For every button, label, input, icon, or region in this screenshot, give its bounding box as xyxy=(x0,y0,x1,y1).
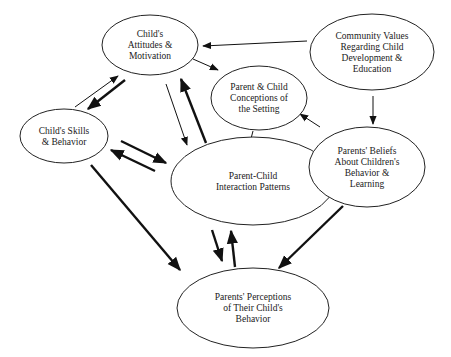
arrow-interaction-to-attitudes xyxy=(181,79,206,143)
arrow-interaction-to-perceptions xyxy=(212,230,222,261)
arrow-attitudes-to-conceptions xyxy=(193,59,218,70)
arrow-skills-to-perceptions xyxy=(91,165,180,270)
node-conceptions: Parent & ChildConceptions ofthe Setting xyxy=(211,66,307,130)
node-community: Community ValuesRegarding ChildDevelopme… xyxy=(310,14,434,90)
node-label-line: Child's xyxy=(137,29,164,39)
node-label-line: the Setting xyxy=(239,104,280,114)
arrow-skills-to-interaction xyxy=(121,141,166,163)
node-label-line: Parents' Beliefs xyxy=(338,146,397,156)
node-label-line: Behavior xyxy=(236,314,272,324)
node-label-line: Behavior & xyxy=(345,168,390,178)
nodes-layer: Child'sAttitudes &MotivationCommunity Va… xyxy=(20,14,434,348)
node-label-line: Parent-Child xyxy=(229,171,278,181)
node-label-line: Interaction Patterns xyxy=(216,182,290,192)
node-label-line: Attitudes & xyxy=(128,40,173,50)
node-attitudes: Child'sAttitudes &Motivation xyxy=(102,15,198,75)
node-label-line: Development & xyxy=(342,53,404,63)
node-skills: Child's Skills& Behavior xyxy=(20,109,108,163)
node-label-line: & Behavior xyxy=(42,137,87,147)
node-label-line: About Children's xyxy=(335,157,400,167)
node-label-line: Education xyxy=(353,64,392,74)
node-label-line: Community Values xyxy=(336,31,409,41)
arrow-community-to-attitudes xyxy=(203,41,307,46)
node-label-line: Conceptions of xyxy=(230,93,289,103)
diagram-canvas: Child'sAttitudes &MotivationCommunity Va… xyxy=(0,0,451,357)
node-label-line: Regarding Child xyxy=(340,42,403,52)
node-label-line: of Their Child's xyxy=(223,303,283,313)
node-label-line: Child's Skills xyxy=(39,126,90,136)
arrow-attitudes-to-interaction xyxy=(166,84,187,145)
node-beliefs: Parents' BeliefsAbout Children'sBehavior… xyxy=(309,127,425,207)
node-label-line: Learning xyxy=(350,179,385,189)
node-label-line: Parent & Child xyxy=(230,82,288,92)
node-label-line: Motivation xyxy=(129,51,171,61)
node-perceptions: Parents' Perceptionsof Their Child'sBeha… xyxy=(177,268,329,348)
node-interaction: Parent-ChildInteraction Patterns xyxy=(171,137,335,225)
node-label-line: Parents' Perceptions xyxy=(215,292,292,302)
arrow-beliefs-to-conceptions xyxy=(300,114,320,127)
arrow-perceptions-to-interaction xyxy=(231,231,235,267)
